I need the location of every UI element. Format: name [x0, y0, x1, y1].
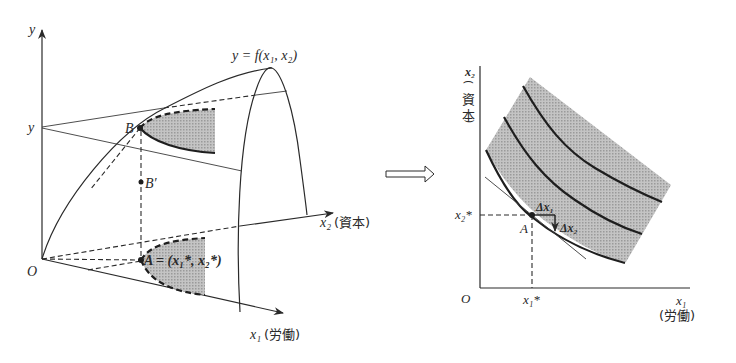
point-A — [529, 212, 535, 218]
x1-star-label: x₁* — [522, 292, 540, 307]
point-A-label: A = (x₁*, x₂*) — [143, 253, 222, 269]
y-axis-label: y — [27, 22, 36, 37]
x2-axis-label: x₂ — [464, 65, 475, 79]
projection-ray — [90, 128, 140, 190]
x2-star-label: x₂* — [454, 207, 472, 222]
origin-label: O — [461, 291, 471, 306]
origin-label: O — [27, 264, 37, 279]
point-B — [137, 125, 143, 131]
origin-to-A-dash — [42, 259, 141, 260]
left-3d-panel: y y y = f(x₁, x₂) O x₂ (資本) x₁ (労働) B B′… — [26, 22, 370, 342]
x1-axis-cjk-label: (労働) — [659, 308, 695, 323]
production-function-diagram: y y y = f(x₁, x₂) O x₂ (資本) x₁ (労働) B B′… — [0, 0, 736, 363]
point-A-label: A — [519, 221, 528, 236]
point-B-prime — [139, 180, 144, 185]
surface-front-edge — [42, 68, 272, 259]
surface-cross-section — [238, 68, 307, 312]
x1-axis-label: x₁ — [675, 293, 686, 308]
x1-axis-label: x₁ — [249, 327, 261, 342]
upper-contour-set — [486, 77, 671, 262]
point-B-label: B — [125, 121, 134, 136]
function-label: y = f(x₁, x₂) — [230, 48, 297, 64]
right-isoquant-panel: x₂ ( 資 本 ) O x₂* x₁* x₁ (労働) A Δx₁ Δx₂ — [454, 65, 695, 323]
x2-axis-cjk-open: ( — [462, 80, 475, 84]
x2-axis-label: x₂ — [319, 215, 331, 230]
delta-x2-label: Δx₂ — [559, 221, 578, 235]
x2-axis-cjk-char1: 資 — [462, 92, 475, 107]
point-Bprime-label: B′ — [145, 176, 158, 191]
x2-axis-cjk-close: ) — [463, 119, 476, 123]
y-level-label: y — [26, 120, 35, 135]
delta-x1-label: Δx₁ — [535, 200, 554, 214]
x2-axis-cjk-label: (資本) — [334, 215, 370, 230]
x1-axis-cjk-label: (労働) — [264, 327, 300, 342]
level-line-upper-back — [256, 91, 287, 95]
origin-to-A-dash-2 — [88, 261, 141, 270]
implies-arrow-icon — [386, 166, 434, 182]
